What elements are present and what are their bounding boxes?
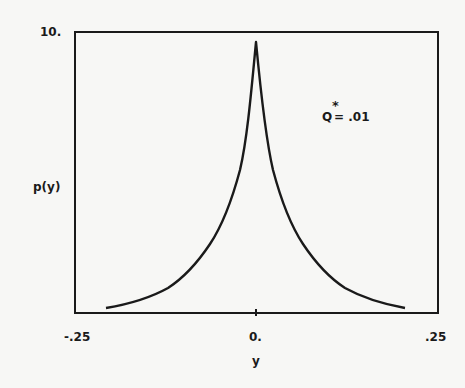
x-min-tick-label: -.25 [64, 330, 90, 344]
y-axis-label: p(y) [33, 180, 60, 194]
annotation-symbol: Q [322, 110, 332, 124]
x-mid-tick-label: 0. [249, 330, 262, 344]
y-max-tick-label: 10. [40, 25, 61, 39]
density-curve [106, 42, 405, 308]
x-axis-label: y [252, 354, 260, 368]
x-max-tick-label: .25 [425, 330, 446, 344]
annotation-value: = .01 [334, 110, 370, 124]
plot-frame [75, 32, 438, 313]
